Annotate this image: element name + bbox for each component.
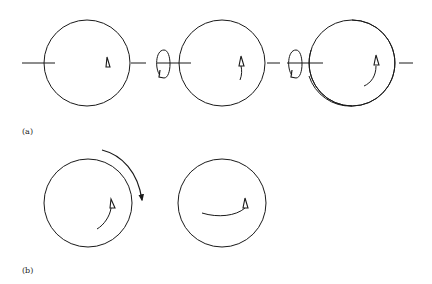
marker-trail: [240, 66, 242, 80]
sphere-outline: [44, 20, 130, 106]
rotation-arrowhead-icon: [159, 70, 164, 78]
panel-b-label: (b): [22, 266, 33, 275]
rotation-arrowhead-icon: [291, 70, 296, 78]
panel-a-label: (a): [22, 127, 33, 136]
triangle-marker-icon: [374, 55, 379, 65]
rotation-symbol-1: [157, 50, 191, 78]
rotation-loop-icon: [157, 50, 170, 78]
sphere-outline: [179, 20, 265, 106]
panel-b: [44, 150, 266, 247]
sphere-outline: [44, 159, 132, 247]
panel-a: [22, 20, 413, 106]
triangle-marker-icon: [110, 199, 115, 208]
sphere-2: [179, 20, 280, 106]
sphere-3: [309, 20, 413, 106]
sphere-5: [178, 159, 266, 247]
triangle-marker-icon: [239, 56, 244, 66]
rotation-loop-icon: [289, 50, 302, 78]
triangle-marker-icon: [243, 198, 248, 208]
sphere-4: [44, 159, 132, 247]
marker-trail: [202, 208, 245, 216]
marker-trail: [97, 208, 111, 229]
rotation-symbol-2: [287, 50, 323, 78]
sphere-1: [22, 20, 146, 106]
figure-canvas: (a) (b): [0, 0, 432, 284]
marker-trail: [364, 66, 376, 86]
sphere-outline: [178, 159, 266, 247]
triangle-marker-icon: [106, 57, 110, 67]
